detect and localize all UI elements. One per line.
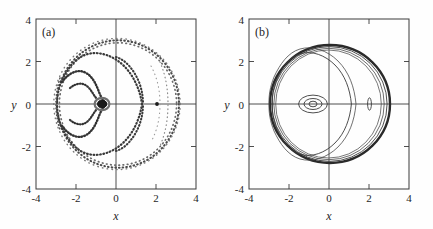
figure-container: (a) -4 -2 0 2 4 4 2 0 -2 -4 x y [0, 0, 433, 229]
central-filled-blob [97, 100, 106, 108]
isolated-fixed-point [155, 102, 159, 106]
panel-b-plot: (b) -4 -2 0 2 4 4 2 0 -2 -4 x y [216, 0, 433, 229]
panel-b-xtick-2: 2 [366, 192, 372, 204]
panel-b-ytick--2: -2 [235, 141, 244, 153]
panel-b-ytick-2: 2 [239, 56, 245, 68]
panel-a-ylabel: y [10, 98, 17, 112]
panel-a: (a) -4 -2 0 2 4 4 2 0 -2 -4 x y [0, 0, 216, 229]
panel-b-ylabel: y [223, 98, 230, 112]
panel-a-label: (a) [42, 25, 55, 39]
panel-a-xtick-4: 4 [193, 192, 199, 204]
right-lobe-upper [116, 57, 143, 104]
panel-a-ytick--2: -2 [22, 141, 31, 153]
panel-b-xtick--2: -2 [284, 192, 293, 204]
inner-crescent-lower [57, 104, 142, 155]
panel-a-xtick-2: 2 [153, 192, 159, 204]
panel-b-label: (b) [255, 25, 269, 39]
panel-a-xtick--4: -4 [31, 192, 41, 204]
panel-b-xtick-0: 0 [326, 192, 332, 204]
panel-a-ytick-2: 2 [26, 56, 32, 68]
panel-a-xlabel: x [112, 209, 119, 223]
panel-b-xtick--4: -4 [244, 192, 254, 204]
panel-a-plot: (a) -4 -2 0 2 4 4 2 0 -2 -4 x y [0, 0, 216, 229]
panel-b-ytick--4: -4 [235, 183, 245, 195]
panel-b-xtick-4: 4 [406, 192, 412, 204]
fold-upper-inner [70, 84, 97, 99]
panel-b: (b) -4 -2 0 2 4 4 2 0 -2 -4 x y [216, 0, 432, 229]
panel-b-ytick-0: 0 [239, 99, 245, 111]
panel-a-axes [36, 19, 196, 189]
panel-b-xlabel: x [325, 209, 332, 223]
right-lobe-lower [116, 104, 143, 151]
fold-lower-inner [70, 109, 97, 124]
panel-a-ytick-0: 0 [26, 99, 32, 111]
panel-b-ytick-4: 4 [239, 14, 245, 26]
panel-a-ytick-4: 4 [26, 14, 32, 26]
panel-a-xtick--2: -2 [71, 192, 80, 204]
panel-a-xtick-0: 0 [113, 192, 119, 204]
panel-a-ytick--4: -4 [22, 183, 32, 195]
